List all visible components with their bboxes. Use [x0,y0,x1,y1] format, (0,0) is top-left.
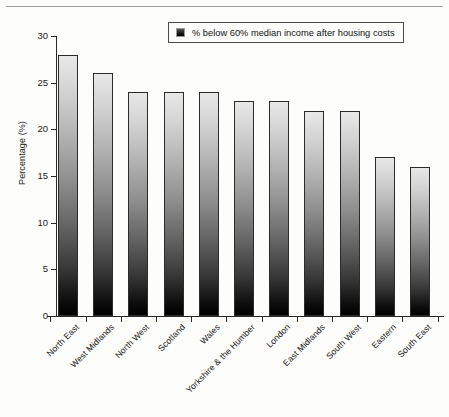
y-axis-tick-label: 25 [8,77,48,88]
bar [58,55,78,316]
x-axis-tick [50,317,51,322]
bar [164,92,184,316]
y-axis-tick [51,129,57,130]
x-axis-tick [156,317,157,322]
x-axis-category-label: South West [324,322,363,361]
y-axis-tick [51,176,57,177]
y-axis-tick [51,223,57,224]
bar [304,111,324,316]
x-axis-line [47,316,444,317]
x-axis-category-label: Yorkshire & the Humber [184,322,257,395]
y-axis-tick [51,316,57,317]
bar [340,111,360,316]
x-axis-category-label: London [264,322,292,350]
legend-swatch-icon [176,28,185,37]
x-axis-category-label: Scotland [155,322,186,353]
x-axis-category-label: North West [113,322,151,360]
x-axis-tick [402,317,403,322]
bar [410,167,430,316]
y-axis-tick [51,36,57,37]
y-axis-tick-label: 0 [8,310,48,321]
y-axis-tick-label: 10 [8,217,48,228]
y-axis-tick-label: 15 [8,170,48,181]
x-axis-tick [86,317,87,322]
x-axis-tick [297,317,298,322]
x-axis-tick [121,317,122,322]
bar [375,157,395,316]
x-axis-tick [438,317,439,322]
x-axis-category-label: North East [45,322,81,358]
chart-legend: % below 60% median income after housing … [168,22,404,43]
y-axis-tick-label: 30 [8,30,48,41]
y-axis-tick-label: 20 [8,123,48,134]
bar [199,92,219,316]
x-axis-tick [332,317,333,322]
y-axis-tick [51,269,57,270]
x-axis-category-label: South East [396,322,434,360]
y-axis-tick [51,83,57,84]
y-axis-tick-label: 5 [8,263,48,274]
bar [234,101,254,316]
bar [269,101,289,316]
bar [93,73,113,316]
x-axis-category-label: Wales [198,322,222,346]
x-axis-tick [262,317,263,322]
y-axis-title: Percentage (%) [17,93,27,213]
x-axis-tick [367,317,368,322]
x-axis-tick [191,317,192,322]
bar [128,92,148,316]
x-axis-tick [226,317,227,322]
x-axis-category-label: Eastern [369,322,398,351]
bar-chart: Percentage (%) 051015202530 North EastWe… [0,0,449,417]
legend-label: % below 60% median income after housing … [192,28,395,38]
